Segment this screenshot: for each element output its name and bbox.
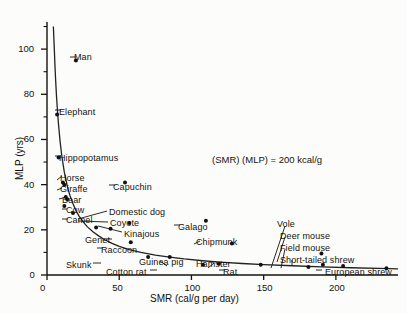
x-tick-label: 0 <box>40 282 45 293</box>
point-label: European shrew <box>325 268 392 277</box>
point-label: Domestic dog <box>109 208 165 217</box>
y-tick-label: 100 <box>18 43 34 54</box>
point-label: Bear <box>62 196 81 205</box>
point-label: Genet <box>85 236 110 245</box>
y-tick-label: 20 <box>24 224 35 235</box>
x-tick-label: 200 <box>329 282 345 293</box>
point-label: Short-tailed shrew <box>280 256 354 265</box>
point-label: Cow <box>66 206 84 215</box>
point-label: Kinajous <box>124 230 159 239</box>
point-label: Deer mouse <box>280 232 330 241</box>
point-label: Rat <box>223 268 237 277</box>
y-axis-title: MLP (yrs) <box>14 137 25 180</box>
point-label: Elephant <box>59 108 95 117</box>
point-label: Coyote <box>110 219 139 228</box>
point-label: Cotton rat <box>106 268 147 277</box>
x-tick-label: 150 <box>257 282 273 293</box>
point-label: Horse <box>60 174 85 183</box>
point-label: Chipmunk <box>196 238 237 247</box>
point-label: Camel <box>66 216 93 225</box>
equation-annotation: (SMR) (MLP) = 200 kcal/g <box>212 154 322 165</box>
point-label: Galago <box>178 223 208 232</box>
point-label: Giraffe <box>60 185 88 194</box>
data-point <box>129 240 133 244</box>
point-label: Guinea pig <box>139 258 184 267</box>
x-tick-label: 50 <box>112 282 123 293</box>
point-label: Capuchin <box>113 183 152 192</box>
point-label: Skunk <box>66 261 92 270</box>
y-tick-label: 40 <box>24 179 35 190</box>
point-label: Hippopotamus <box>59 154 118 163</box>
y-tick-label: 80 <box>24 88 35 99</box>
x-axis-title: SMR (cal/g per day) <box>150 293 239 304</box>
point-label: Man <box>74 53 92 62</box>
point-label: Field mouse <box>280 244 330 253</box>
x-tick-label: 100 <box>184 282 200 293</box>
scatter-chart-figure: 050100150200020406080100 ManElephantHipp… <box>0 0 407 313</box>
data-point <box>94 226 98 230</box>
y-tick-label: 0 <box>29 269 34 280</box>
point-label: Raccoon <box>101 246 137 255</box>
fitted-hyperbola-curve <box>53 27 398 269</box>
data-point <box>306 265 310 269</box>
data-point <box>259 263 263 267</box>
y-tick-label: 60 <box>24 133 35 144</box>
point-label: Vole <box>277 220 295 229</box>
